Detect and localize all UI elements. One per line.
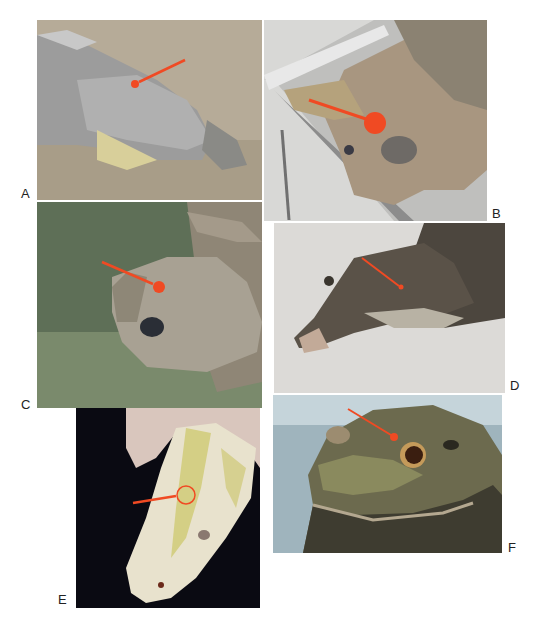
panel-e-image bbox=[76, 408, 260, 608]
panel-f-label: F bbox=[508, 540, 516, 555]
panel-f-image bbox=[273, 395, 502, 553]
panel-a-image bbox=[37, 20, 262, 200]
panel-d-label: D bbox=[510, 378, 519, 393]
panel-b-label: B bbox=[492, 206, 501, 221]
panel-e-label: E bbox=[58, 592, 67, 607]
panel-b-image bbox=[264, 20, 487, 221]
panel-c-label: C bbox=[21, 397, 30, 412]
panel-a-label: A bbox=[21, 186, 30, 201]
panel-c-image bbox=[37, 202, 262, 408]
panel-d-image bbox=[274, 223, 505, 393]
